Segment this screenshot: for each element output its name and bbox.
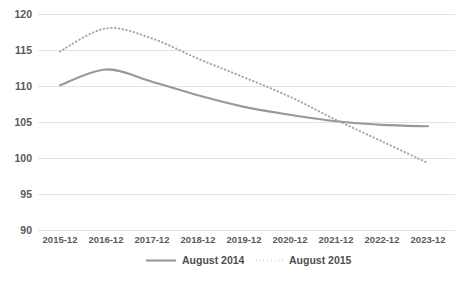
legend-label[interactable]: August 2014 (182, 254, 245, 266)
x-axis-tick-labels: 2015-122016-122017-122018-122019-122020-… (43, 234, 446, 245)
x-tick-label: 2017-12 (135, 234, 170, 245)
y-tick-label: 100 (14, 152, 32, 164)
x-tick-label: 2022-12 (365, 234, 400, 245)
x-tick-label: 2021-12 (319, 234, 354, 245)
legend-label[interactable]: August 2015 (289, 254, 352, 266)
x-tick-label: 2019-12 (227, 234, 262, 245)
x-tick-label: 2023-12 (411, 234, 446, 245)
x-tick-label: 2016-12 (89, 234, 124, 245)
y-tick-label: 120 (14, 8, 32, 20)
series-lines (60, 28, 428, 163)
y-tick-label: 95 (20, 188, 32, 200)
x-tick-label: 2018-12 (181, 234, 216, 245)
y-tick-label: 90 (20, 224, 32, 236)
y-tick-label: 110 (15, 80, 32, 92)
x-tick-label: 2020-12 (273, 234, 308, 245)
chart-canvas: 1201151101051009590 2015-122016-122017-1… (0, 0, 461, 284)
line-chart: 1201151101051009590 2015-122016-122017-1… (0, 0, 461, 284)
series-line-2 (60, 28, 428, 163)
y-axis-tick-labels: 1201151101051009590 (14, 8, 32, 236)
y-tick-label: 115 (15, 44, 32, 56)
chart-legend: August 2014August 2015 (146, 254, 352, 266)
y-tick-label: 105 (14, 116, 32, 128)
gridlines (38, 15, 455, 231)
x-tick-label: 2015-12 (43, 234, 78, 245)
series-line-1 (60, 69, 428, 126)
